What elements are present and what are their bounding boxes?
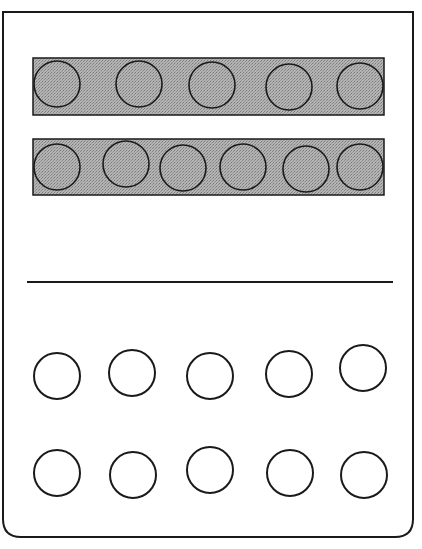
open-circle (341, 452, 387, 498)
open-circle (34, 450, 80, 496)
open-circle-row-2 (34, 447, 387, 498)
shaded-bars-group (33, 58, 384, 195)
open-circle (34, 353, 80, 399)
diagram-canvas (0, 0, 422, 549)
shaded-bar-1 (33, 58, 384, 115)
open-circle (109, 350, 155, 396)
open-circle (267, 450, 313, 496)
open-circle (187, 353, 233, 399)
bar-rect (33, 58, 384, 115)
open-circle-row-1 (34, 345, 386, 399)
open-circle (266, 351, 312, 397)
open-circle (340, 345, 386, 391)
open-circle (110, 452, 156, 498)
open-circle (187, 447, 233, 493)
open-circles-group (34, 345, 387, 498)
shaded-bar-2 (33, 139, 384, 195)
bar-rect (33, 139, 384, 195)
